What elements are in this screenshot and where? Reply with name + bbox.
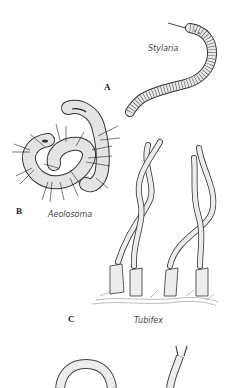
worm-illustration-figure: A Stylaria B Aeolosoma C Tubifex [0, 0, 234, 388]
tubifex-worms-drawing [92, 142, 218, 306]
panel-label-c: C [68, 314, 75, 324]
panel-label-b: B [16, 206, 22, 216]
species-label-tubifex: Tubifex [134, 316, 163, 325]
partial-worm-drawings-bottom [60, 346, 187, 388]
species-label-aeolosoma: Aeolosoma [48, 210, 92, 219]
species-label-stylaria: Stylaria [148, 44, 179, 53]
panel-label-a: A [104, 82, 111, 92]
aeolosoma-worm-drawing [12, 107, 120, 202]
stylaria-worm-drawing [130, 23, 212, 112]
illustration-canvas [0, 0, 234, 388]
